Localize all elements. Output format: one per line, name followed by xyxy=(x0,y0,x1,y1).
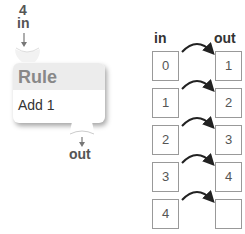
curved-arrow-icon xyxy=(182,81,212,89)
curved-arrow-icon xyxy=(182,155,212,163)
curved-arrow-icon xyxy=(182,44,212,52)
curved-arrow-icon xyxy=(182,118,212,126)
mapping-arrows xyxy=(0,0,245,234)
curved-arrow-icon xyxy=(182,192,212,200)
